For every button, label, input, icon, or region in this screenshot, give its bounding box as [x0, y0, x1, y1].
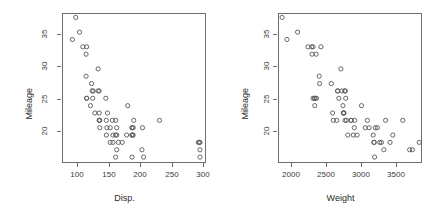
data-point — [391, 133, 395, 137]
data-point — [365, 118, 369, 122]
data-point — [388, 140, 392, 144]
y-axis-title-left: Mileage — [24, 88, 34, 120]
y-tick-label-right-35: 35 — [262, 29, 271, 38]
x-tick-mark-left-200 — [140, 163, 141, 167]
y-tick-mark-right-35 — [273, 34, 277, 35]
y-tick-mark-left-25 — [57, 99, 61, 100]
data-point — [285, 37, 289, 41]
x-tick-mark-left-150 — [109, 163, 110, 167]
data-point — [93, 111, 97, 115]
data-point — [383, 118, 387, 122]
y-tick-label-left-25: 25 — [40, 94, 49, 103]
x-tick-label-left-150: 150 — [102, 170, 116, 179]
x-tick-label-right-3500: 3500 — [387, 170, 405, 179]
y-tick-mark-right-20 — [273, 131, 277, 132]
data-point — [314, 52, 318, 56]
data-point — [341, 104, 345, 108]
data-point — [104, 118, 108, 122]
x-tick-mark-right-2500 — [326, 163, 327, 167]
data-point — [125, 133, 129, 137]
data-point — [337, 96, 341, 100]
data-point — [130, 155, 134, 159]
data-point — [84, 74, 88, 78]
data-point — [70, 37, 74, 41]
x-tick-label-left-100: 100 — [70, 170, 84, 179]
y-tick-label-right-20: 20 — [262, 126, 271, 135]
x-axis-title-right: Weight — [327, 193, 355, 203]
x-tick-label-left-300: 300 — [196, 170, 210, 179]
data-point — [140, 148, 144, 152]
y-tick-label-left-30: 30 — [40, 61, 49, 70]
data-point — [317, 81, 321, 85]
data-point — [198, 148, 202, 152]
data-point — [331, 111, 335, 115]
y-tick-label-left-35: 35 — [40, 29, 49, 38]
x-axis-title-left: Disp. — [114, 193, 135, 203]
x-tick-mark-right-3000 — [361, 163, 362, 167]
scatter-panel-mileage-vs-disp: Mileage 35 30 25 20 100 150 200 250 300 … — [0, 0, 219, 220]
data-point — [344, 96, 348, 100]
data-point — [74, 15, 78, 19]
scatter-panel-mileage-vs-weight: Mileage 35 30 25 20 2000 2500 3000 3500 … — [219, 0, 438, 220]
y-tick-mark-right-25 — [273, 99, 277, 100]
data-point — [371, 133, 375, 137]
data-point — [401, 118, 405, 122]
data-point — [105, 111, 109, 115]
data-point — [339, 67, 343, 71]
data-point — [417, 140, 421, 144]
data-point — [85, 96, 89, 100]
y-tick-mark-left-35 — [57, 34, 61, 35]
data-point — [352, 126, 356, 130]
data-point — [157, 118, 161, 122]
data-point — [295, 30, 299, 34]
data-point — [97, 111, 101, 115]
x-tick-mark-left-100 — [77, 163, 78, 167]
data-point — [84, 52, 88, 56]
x-tick-mark-left-300 — [203, 163, 204, 167]
data-point — [77, 30, 81, 34]
data-point — [96, 67, 100, 71]
data-point — [132, 118, 136, 122]
data-point — [140, 126, 144, 130]
data-point — [313, 104, 317, 108]
data-point — [372, 155, 376, 159]
data-points-right — [278, 13, 422, 163]
x-tick-label-right-3000: 3000 — [352, 170, 370, 179]
x-tick-label-left-250: 250 — [165, 170, 179, 179]
y-tick-label-left-20: 20 — [40, 126, 49, 135]
x-tick-mark-right-3500 — [396, 163, 397, 167]
data-point — [382, 148, 386, 152]
data-point — [115, 148, 119, 152]
y-tick-label-right-30: 30 — [262, 61, 271, 70]
data-point — [126, 104, 130, 108]
y-tick-mark-right-30 — [273, 66, 277, 67]
data-point — [198, 155, 202, 159]
data-points-left — [62, 13, 206, 163]
x-tick-label-right-2000: 2000 — [282, 170, 300, 179]
data-point — [319, 45, 323, 49]
data-point — [317, 74, 321, 78]
data-point — [410, 148, 414, 152]
data-point — [114, 155, 118, 159]
data-point — [88, 104, 92, 108]
y-tick-mark-left-30 — [57, 66, 61, 67]
data-point — [91, 96, 95, 100]
data-point — [359, 104, 363, 108]
y-tick-label-right-25: 25 — [262, 94, 271, 103]
data-point — [329, 81, 333, 85]
y-axis-title-right: Mileage — [240, 88, 250, 120]
x-tick-mark-right-2000 — [291, 163, 292, 167]
data-point — [346, 133, 350, 137]
data-point — [115, 126, 119, 130]
data-point — [280, 15, 284, 19]
data-point — [111, 140, 115, 144]
data-point — [98, 126, 102, 130]
data-point — [89, 81, 93, 85]
x-tick-label-left-200: 200 — [133, 170, 147, 179]
x-tick-label-right-2500: 2500 — [317, 170, 335, 179]
y-tick-mark-left-20 — [57, 131, 61, 132]
figure-canvas: Mileage 35 30 25 20 100 150 200 250 300 … — [0, 0, 438, 220]
data-point — [141, 155, 145, 159]
data-point — [104, 96, 108, 100]
data-point — [310, 52, 314, 56]
